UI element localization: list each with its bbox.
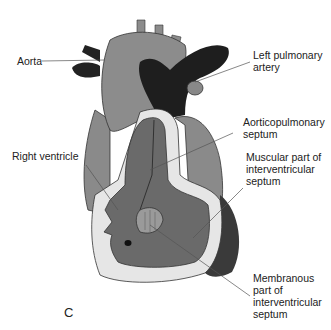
label-right-ventricle: Right ventricle [12,150,79,162]
heart-septation-diagram: Aorta Left pulmonary artery Aorticopulmo… [0,0,331,330]
left-pulmonary-artery-end [187,81,203,95]
leader-aorta [42,60,105,61]
label-membranous-septum: Membranous part of interventricular sept… [253,272,322,320]
figure-letter: C [64,307,73,319]
label-left-pulmonary-artery: Left pulmonary artery [253,49,322,73]
svc-vessel [82,45,100,62]
label-aorta: Aorta [17,55,42,67]
ostium-dot [125,240,132,246]
pulmonary-vein-left [72,63,100,78]
label-muscular-septum: Muscular part of interventricular septum [246,151,321,187]
label-aorticopulmonary-septum: Aorticopulmonary septum [243,116,325,140]
